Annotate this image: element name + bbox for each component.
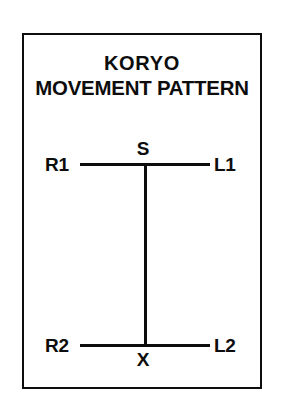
pattern-card-frame: KORYO MOVEMENT PATTERN R1 L1 S R2 L2 X <box>22 33 262 389</box>
movement-pattern-diagram: R1 L1 S R2 L2 X <box>24 35 260 387</box>
diagram-edge-center-stem <box>144 163 147 347</box>
diagram-node-label-s: S <box>25 138 261 160</box>
page-root: KORYO MOVEMENT PATTERN R1 L1 S R2 L2 X <box>0 0 281 415</box>
diagram-node-label-x: X <box>25 349 261 371</box>
